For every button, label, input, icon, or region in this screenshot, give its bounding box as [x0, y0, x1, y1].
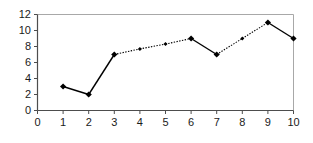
x-tick-label: 4: [137, 116, 143, 128]
series-segment: [191, 39, 217, 55]
x-tick-label: 3: [111, 116, 117, 128]
series-segment: [242, 23, 268, 39]
data-point-marker: [60, 83, 66, 89]
y-axis: 024681012: [19, 8, 38, 116]
axis-lines: [38, 15, 294, 111]
x-axis: 012345678910: [34, 111, 299, 128]
y-tick-label: 6: [25, 56, 31, 68]
x-tick-label: 10: [287, 116, 299, 128]
series-markers: [60, 19, 297, 97]
y-tick-label: 0: [25, 104, 31, 116]
y-tick-label: 2: [25, 88, 31, 100]
x-tick-label: 8: [239, 116, 245, 128]
x-tick-label: 2: [86, 116, 92, 128]
y-tick-label: 12: [19, 8, 31, 20]
series-segment: [217, 39, 243, 55]
series-segment: [166, 39, 192, 45]
chart-container: 024681012012345678910: [0, 0, 313, 143]
series-segment: [268, 23, 294, 39]
plot-frame: [38, 15, 294, 111]
y-tick-label: 4: [25, 72, 31, 84]
y-tick-label: 10: [19, 24, 31, 36]
x-tick-label: 0: [34, 116, 40, 128]
data-point-marker: [138, 47, 142, 51]
series-segment: [63, 87, 89, 95]
series-segment: [114, 49, 140, 55]
x-tick-label: 7: [214, 116, 220, 128]
line-chart: 024681012012345678910: [0, 0, 313, 143]
series-line: [63, 23, 293, 95]
series-segment: [140, 44, 166, 49]
y-tick-label: 8: [25, 40, 31, 52]
x-tick-label: 1: [60, 116, 66, 128]
series-segment: [89, 55, 115, 95]
x-tick-label: 9: [265, 116, 271, 128]
data-point-marker: [164, 42, 168, 46]
x-tick-label: 6: [188, 116, 194, 128]
x-tick-label: 5: [162, 116, 168, 128]
